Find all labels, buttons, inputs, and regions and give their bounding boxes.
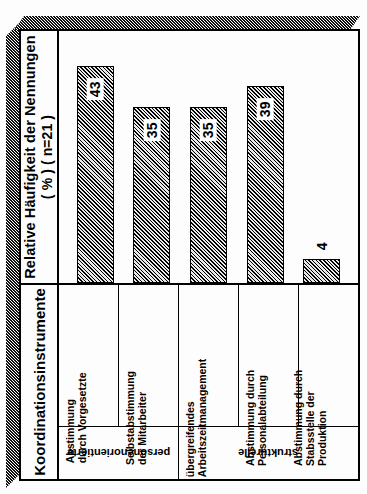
bar-slot: 39 — [237, 31, 294, 283]
label-table-body: Abstimmung durch Vorgesetzte Selbstabsti… — [59, 285, 358, 479]
bars-cell: 43 35 35 39 — [59, 31, 358, 283]
bar-slot: 35 — [124, 31, 181, 283]
bar-uebergreifendes-arbeitszeitmanagement[interactable]: 35 — [190, 107, 227, 283]
bar-abstimmung-durch-vorgesetzte[interactable]: 43 — [77, 66, 114, 283]
y-axis-title-line1: Relative Häufigkeit der Nennungen — [22, 35, 38, 278]
bar-abstimmung-durch-stabsstelle-der-produktion[interactable]: 4 — [303, 259, 340, 283]
bar-value-label: 4 — [314, 243, 329, 251]
figure-root: Relative Häufigkeit der Nennungen ( % ) … — [0, 0, 367, 494]
bar-value-label: 43 — [87, 79, 104, 101]
label-table: Koordinationsinstrumente Abstimmung durc… — [21, 285, 358, 479]
bar-slot: 4 — [293, 31, 350, 283]
plot-area: Relative Häufigkeit der Nennungen ( % ) … — [21, 31, 358, 285]
frame-shadow-top — [14, 16, 360, 30]
x-axis-title-cell: Koordinationsinstrumente — [21, 285, 59, 479]
label-line: Produktion — [317, 370, 329, 466]
y-axis-title-line2: ( % ) ( n=21 ) — [39, 35, 56, 278]
instrument-label-row: Abstimmung durch Vorgesetzte Selbstabsti… — [59, 285, 358, 427]
bar-selbstabstimmung-der-mitarbeiter[interactable]: 35 — [133, 107, 170, 283]
instrument-col-3: übergreifendes Arbeitszeitmanagement — [179, 285, 239, 426]
y-axis-title: Relative Häufigkeit der Nennungen ( % ) … — [22, 35, 56, 278]
x-axis-title: Koordinationsinstrumente — [31, 288, 48, 476]
instrument-col-1: Abstimmung durch Vorgesetzte — [59, 285, 119, 426]
instrument-col-5: Abstimmung durch Stabsstelle der Produkt… — [299, 285, 358, 426]
label-line: Stabsstelle der — [305, 370, 317, 466]
bar-series: 43 35 35 39 — [59, 31, 358, 283]
instrument-label-uebergreifendes-arbeitszeitmanagement: übergreifendes Arbeitszeitmanagement — [185, 359, 209, 477]
group-label-personenorientierte: personenorientierte — [67, 447, 170, 459]
instrument-label-abstimmung-durch-stabsstelle-der-produktion: Abstimmung durch Stabsstelle der Produkt… — [293, 370, 329, 466]
y-axis-title-cell: Relative Häufigkeit der Nennungen ( % ) … — [21, 31, 59, 283]
instrument-col-2: Selbstabstimmung der Mitarbeiter — [119, 285, 179, 426]
label-line: Arbeitszeitmanagement — [197, 359, 209, 477]
bar-abstimmung-durch-personalabteilung[interactable]: 39 — [247, 86, 284, 283]
label-line: übergreifendes — [185, 359, 197, 477]
frame-shadow-left — [6, 22, 20, 488]
chart-panel: Relative Häufigkeit der Nennungen ( % ) … — [19, 29, 360, 481]
bar-value-label: 39 — [257, 99, 274, 121]
bar-slot: 43 — [67, 31, 124, 283]
bar-slot: 35 — [180, 31, 237, 283]
bar-value-label: 35 — [200, 119, 217, 141]
instrument-col-4: Abstimmung durch Personalabteilung — [239, 285, 299, 426]
group-label-strukturelle: strukturelle — [238, 447, 298, 459]
bar-value-label: 35 — [144, 119, 161, 141]
